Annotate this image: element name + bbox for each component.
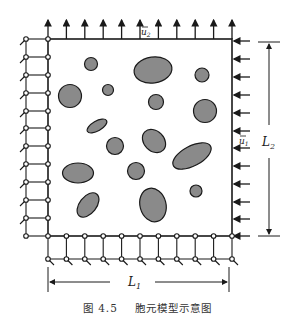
left-nodes [24,37,51,239]
ground-hatch-left [20,39,26,224]
label-u1: u1 [239,136,249,147]
left-truss-support [20,37,50,239]
inclusions [59,54,217,224]
top-displacement-arrows [48,20,232,39]
label-u2: u2 [141,27,151,38]
ground-hatch-bottom [48,259,238,265]
bottom-truss-support [46,234,238,265]
svg-text:u2: u2 [141,27,151,38]
label-L2: L2 [261,135,275,151]
figure-caption: 图 4.5 胞元模型示意图 [0,300,295,315]
unit-cell-diagram: L2 L1 u2 u1 [0,0,295,323]
label-L1: L1 [127,275,141,291]
caption-number: 图 4.5 [83,302,118,314]
svg-text:u1: u1 [239,136,249,147]
caption-title: 胞元模型示意图 [135,302,212,314]
